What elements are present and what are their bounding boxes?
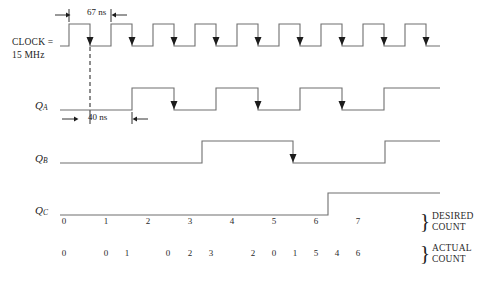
actual-count-caption-line2: COUNT xyxy=(432,254,472,265)
qa-label: QA xyxy=(35,99,48,112)
actual-count-caption: ACTUAL COUNT xyxy=(432,243,472,265)
actual-count-value: 4 xyxy=(331,248,343,258)
actual-count-value: 2 xyxy=(184,248,196,258)
actual-count-value: 6 xyxy=(352,248,364,258)
actual-count-value: 1 xyxy=(121,248,133,258)
qb-label: QB xyxy=(35,152,48,165)
clock-label: CLOCK = 15 MHz xyxy=(12,36,53,61)
qb-label-letter: Q xyxy=(35,152,43,164)
desired-count-brace: } xyxy=(420,211,430,232)
qa-delay-annotation: 40 ns xyxy=(88,112,107,122)
qc-label-letter: Q xyxy=(35,204,43,216)
desired-count-caption-line2: COUNT xyxy=(432,222,474,233)
desired-count-value: 3 xyxy=(184,216,196,226)
desired-count-value: 7 xyxy=(352,216,364,226)
qa-label-letter: Q xyxy=(35,99,43,111)
actual-count-value: 2 xyxy=(247,248,259,258)
actual-count-value: 0 xyxy=(162,248,174,258)
desired-count-value: 6 xyxy=(310,216,322,226)
clock-label-line2: 15 MHz xyxy=(12,49,53,62)
clock-label-line1: CLOCK = xyxy=(12,36,53,49)
desired-count-caption: DESIRED COUNT xyxy=(432,211,474,233)
clock-falling-edge-arrows xyxy=(87,37,430,46)
qc-waveform xyxy=(60,193,440,215)
actual-count-caption-line1: ACTUAL xyxy=(432,243,472,254)
desired-count-value: 5 xyxy=(268,216,280,226)
desired-count-value: 2 xyxy=(142,216,154,226)
actual-count-brace: } xyxy=(420,243,430,264)
actual-count-value: 5 xyxy=(310,248,322,258)
actual-count-value: 0 xyxy=(58,248,70,258)
qa-waveform xyxy=(60,88,440,110)
qa-label-subscript: A xyxy=(43,103,48,112)
actual-count-value: 3 xyxy=(205,248,217,258)
desired-count-caption-line1: DESIRED xyxy=(432,211,474,222)
qc-label: QC xyxy=(35,204,48,217)
desired-count-value: 1 xyxy=(100,216,112,226)
actual-count-value: 1 xyxy=(289,248,301,258)
timing-diagram-figure: CLOCK = 15 MHz 67 ns QA 40 ns QB QC 0123… xyxy=(0,0,496,286)
desired-count-value: 4 xyxy=(226,216,238,226)
qb-waveform xyxy=(60,141,440,163)
qa-falling-edge-arrows xyxy=(171,101,346,110)
clock-period-annotation: 67 ns xyxy=(87,7,106,17)
actual-count-value: 0 xyxy=(100,248,112,258)
desired-count-value: 0 xyxy=(58,216,70,226)
qb-label-subscript: B xyxy=(43,156,48,165)
actual-count-value: 0 xyxy=(268,248,280,258)
qc-label-subscript: C xyxy=(43,208,48,217)
qb-falling-edge-arrows xyxy=(290,154,297,163)
